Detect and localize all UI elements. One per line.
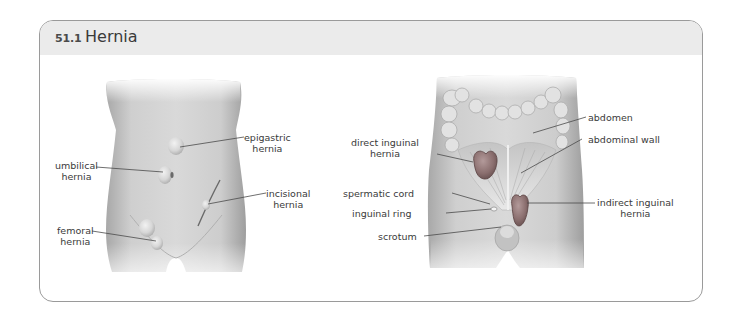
label-indirect-inguinal-hernia: indirect inguinal hernia <box>597 197 674 219</box>
label-femoral-hernia: femoral hernia <box>57 225 94 247</box>
label-line: incisional <box>266 188 310 199</box>
label-spermatic-cord: spermatic cord <box>343 188 414 199</box>
label-line: direct inguinal <box>351 137 419 148</box>
label-epigastric-hernia: epigastric hernia <box>244 132 291 154</box>
label-line: umbilical <box>55 160 98 171</box>
label-line: abdomen <box>588 112 633 123</box>
label-direct-inguinal-hernia: direct inguinal hernia <box>351 137 419 159</box>
label-scrotum: scrotum <box>378 231 417 242</box>
label-line: femoral <box>57 225 94 236</box>
label-line: inguinal ring <box>352 208 411 219</box>
label-line: abdominal wall <box>588 134 660 145</box>
label-line: epigastric <box>244 132 291 143</box>
internal-torso-figure <box>424 75 595 268</box>
label-line: spermatic cord <box>343 188 414 199</box>
label-line: hernia <box>55 171 98 182</box>
label-line: hernia <box>57 236 94 247</box>
label-incisional-hernia: incisional hernia <box>266 188 310 210</box>
label-inguinal-ring: inguinal ring <box>352 208 411 219</box>
label-line: hernia <box>351 148 419 159</box>
external-torso-figure <box>92 79 266 272</box>
label-line: hernia <box>597 208 674 219</box>
label-abdominal-wall: abdominal wall <box>588 134 660 145</box>
label-line: hernia <box>266 199 310 210</box>
label-line: scrotum <box>378 231 417 242</box>
hernia-illustrations <box>0 0 743 319</box>
label-umbilical-hernia: umbilical hernia <box>55 160 98 182</box>
label-abdomen: abdomen <box>588 112 633 123</box>
label-line: indirect inguinal <box>597 197 674 208</box>
label-line: hernia <box>244 143 291 154</box>
